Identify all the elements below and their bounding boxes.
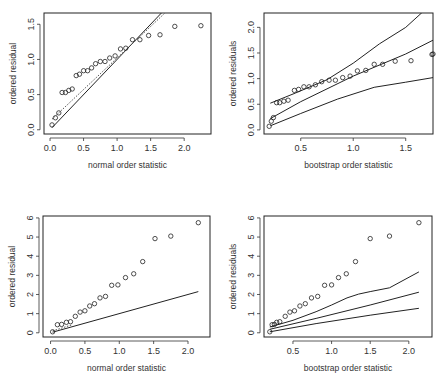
panel-bottom-right: 0.51.01.52.0bootstrap order statistic012… [228, 215, 432, 373]
y-tick-label: 1 [25, 311, 35, 316]
data-point [278, 101, 282, 105]
x-tick-label: 1.5 [364, 346, 377, 356]
data-points [268, 221, 422, 334]
data-point [108, 56, 112, 60]
x-tick-label: 0.0 [44, 143, 57, 153]
data-point [68, 320, 72, 324]
data-point [123, 275, 127, 279]
data-point [55, 323, 59, 327]
x-tick-label: 1.0 [347, 143, 360, 153]
x-tick-label: 1.5 [147, 346, 160, 356]
y-tick-label: 0.0 [26, 124, 36, 137]
y-axis: 0.00.51.01.5 [26, 18, 40, 136]
data-point [329, 283, 333, 287]
data-point [283, 314, 287, 318]
data-point [50, 123, 54, 127]
y-axis-label: ordered residuals [228, 41, 238, 107]
data-point [267, 124, 271, 128]
plot-frame [264, 13, 433, 134]
x-axis-label: bootstrap order statistic [304, 363, 393, 373]
y-tick-label: 4 [25, 254, 35, 259]
y-axis-label: ordered residual [7, 246, 17, 308]
data-point [353, 259, 357, 263]
panel-top-right: 0.51.01.5bootstrap order statistic0.00.5… [228, 7, 435, 170]
data-point [158, 33, 162, 37]
data-point [130, 38, 134, 42]
data-point [93, 62, 97, 66]
y-tick-label: 0 [246, 330, 256, 335]
data-point [409, 59, 413, 63]
x-tick-label: 1.0 [111, 143, 124, 153]
data-point [88, 304, 92, 308]
data-point [103, 59, 107, 63]
data-point [118, 47, 122, 51]
data-point [92, 302, 96, 306]
data-point [64, 320, 68, 324]
x-axis: 0.00.51.01.52.0 [44, 341, 194, 356]
data-point [302, 85, 306, 89]
data-point [98, 59, 102, 63]
data-points [50, 221, 200, 334]
plot-frame [43, 216, 210, 337]
y-tick-label: 0.0 [246, 124, 256, 137]
x-tick-label: 2.0 [178, 143, 191, 153]
reference-lines [270, 7, 433, 126]
data-point [298, 304, 302, 308]
x-axis: 0.51.01.5 [294, 138, 411, 153]
x-axis-label: normal order statistic [88, 160, 168, 170]
data-point [113, 54, 117, 58]
data-point [333, 78, 337, 82]
y-tick-label: 3 [246, 273, 256, 278]
x-tick-label: 0.5 [287, 346, 300, 356]
y-tick-label: 2 [246, 292, 256, 297]
x-tick-label: 1.5 [399, 143, 412, 153]
x-axis-label: normal order statistic [87, 363, 167, 373]
data-point [110, 283, 114, 287]
reference-line [52, 9, 165, 128]
x-tick-label: 2.0 [403, 346, 416, 356]
data-point [282, 99, 286, 103]
y-tick-label: 1 [246, 311, 256, 316]
data-point [296, 87, 300, 91]
x-tick-label: 2.0 [182, 346, 195, 356]
y-axis-label: ordered residual [8, 43, 18, 105]
y-axis: 0.00.51.01.52.0 [246, 21, 260, 136]
y-tick-label: 0 [25, 330, 35, 335]
data-point [286, 98, 290, 102]
data-point [153, 236, 157, 240]
data-point [132, 272, 136, 276]
data-point [83, 309, 87, 313]
data-point [141, 259, 145, 263]
x-axis: 0.00.51.01.52.0 [44, 138, 191, 153]
y-tick-label: 1.5 [246, 47, 256, 60]
x-tick-label: 0.0 [44, 346, 57, 356]
y-tick-label: 2.0 [246, 21, 256, 34]
data-point [303, 302, 307, 306]
x-tick-label: 0.5 [77, 143, 90, 153]
data-point [316, 294, 320, 298]
data-point [103, 294, 107, 298]
data-point [73, 314, 77, 318]
lower-envelope [270, 78, 433, 126]
data-point [89, 66, 93, 70]
x-tick-label: 1.0 [113, 346, 126, 356]
x-axis: 0.51.01.52.0 [287, 341, 415, 356]
data-point [341, 75, 345, 79]
data-point [393, 59, 397, 63]
data-point [322, 283, 326, 287]
data-point [146, 33, 150, 37]
y-tick-label: 3 [25, 273, 35, 278]
x-axis-label: bootstrap order statistic [304, 160, 393, 170]
data-point [59, 322, 63, 326]
data-points [50, 24, 203, 128]
x-tick-label: 1.5 [144, 143, 157, 153]
y-tick-label: 5 [246, 235, 256, 240]
data-point [417, 221, 421, 225]
data-point [336, 275, 340, 279]
data-point [344, 272, 348, 276]
y-tick-label: 1.5 [26, 18, 36, 31]
data-point [169, 234, 173, 238]
data-point [292, 309, 296, 313]
fitted-line [52, 9, 169, 119]
x-tick-label: 0.5 [294, 143, 307, 153]
